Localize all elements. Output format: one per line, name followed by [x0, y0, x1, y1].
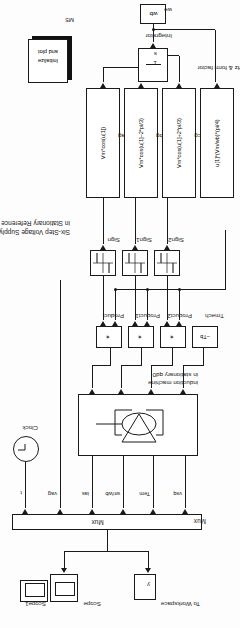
wire-mux-in-2 — [92, 456, 93, 508]
induction-machine-label-1: induction machine — [148, 380, 198, 387]
fcn-expr-1: Vm*cos(u[1]–2*pi/3) — [138, 117, 144, 169]
wire-machine-in-1 — [121, 366, 122, 388]
wire-machine-in-3-riser — [183, 365, 203, 366]
wire-sign-1-to-product-1 — [135, 276, 136, 320]
to-workspace-var: y — [147, 582, 150, 589]
product-label-0: Product — [103, 313, 124, 320]
wire-mux-in-5 — [185, 456, 186, 508]
product-icon-1: * — [136, 335, 146, 339]
wire-machine-in-0-leg — [110, 348, 111, 366]
wire-workspace-leg — [148, 551, 149, 568]
wire-to-scope — [64, 551, 65, 568]
wire-mux-in-4 — [153, 456, 154, 508]
tmech-expr: –Tb — [200, 334, 210, 340]
source-block-wb[interactable]: wb — [140, 4, 166, 24]
wire-sign-0-to-product-0 — [103, 276, 104, 320]
integrator-denominator: s — [154, 51, 157, 58]
wire-mux-in-0 — [25, 462, 26, 508]
scope-screen-icon — [55, 582, 75, 596]
clock-icon — [13, 438, 37, 462]
wire-machine-in-1-leg — [141, 348, 142, 366]
product-block-0[interactable]: * — [96, 326, 122, 348]
mux-icon-label: Mux — [94, 518, 104, 525]
scope-label: Scope — [83, 601, 101, 608]
fcn-expr-0: Vm*cos(u[1]) — [100, 126, 106, 160]
wire-mux-in-3 — [123, 456, 124, 508]
tmech-block[interactable]: –Tb — [192, 326, 218, 348]
wire-vhz-bus-2 — [179, 290, 180, 320]
diagram-title-line2: in Stationary Reference Frame — [0, 219, 70, 227]
diagram-canvas: Mux Mux Scope1 Scope y To Workspace t va… — [0, 0, 240, 628]
sign-label-2: Sign2 — [168, 237, 184, 244]
product-block-2[interactable]: * — [160, 326, 186, 348]
simulink-sheet: Mux Mux Scope1 Scope y To Workspace t va… — [0, 0, 240, 628]
signal-label-t: t — [20, 490, 22, 496]
junction-we-branch — [152, 28, 155, 31]
wire-machine-in-3 — [183, 366, 184, 388]
induction-machine-icon — [96, 402, 182, 448]
arrow-mux-in-2 — [89, 509, 95, 514]
init-block-label: M5 — [65, 17, 74, 24]
wire-machine-in-2-leg — [172, 348, 173, 366]
wire-int-to-fcn-2 — [179, 56, 180, 82]
arrow-scope-in — [61, 568, 67, 573]
wire-machine-in-2-riser — [151, 365, 172, 366]
wire-machine-in-3-leg — [203, 348, 204, 366]
product-block-1[interactable]: * — [128, 326, 154, 348]
arrow-mux-in-5 — [182, 509, 188, 514]
induction-machine-label-2: in stationary qd0 — [153, 372, 198, 379]
integrator-fraction-bar — [146, 64, 161, 65]
sign-label-0: Sign — [108, 237, 120, 244]
scope1-label: Scope1 — [25, 601, 46, 608]
product-icon-2: * — [168, 335, 178, 339]
junction-vhz-0 — [114, 288, 117, 291]
fcn-block-1[interactable]: Vm*cos(u[1]–2*pi/3) — [124, 88, 158, 198]
arrow-product-1-in-a — [132, 321, 138, 326]
wire-mux-in-1 — [60, 280, 61, 508]
arrow-fcn-1-in — [138, 83, 144, 88]
init-and-plot-block[interactable]: Initialize and plot — [28, 39, 68, 83]
wire-fcn-2-to-sign-2 — [167, 198, 168, 244]
wire-workspace-riser — [107, 551, 149, 552]
tmech-label: Tmech — [205, 313, 224, 320]
fcn-expr-2: Vm*cos(u[1]+2*pi/3) — [176, 117, 182, 169]
fcn-block-0[interactable]: Vm*cos(u[1]) — [86, 88, 120, 198]
signum-icon-1 — [122, 250, 148, 276]
wire-machine-in-2 — [151, 366, 152, 388]
arrow-product-2-in-a — [164, 321, 170, 326]
wire-we-branch — [153, 29, 215, 30]
signal-label-wrwb: wr/wb — [105, 491, 120, 497]
fcn-label-vhz: V/Hz & form factor — [197, 65, 240, 72]
fcn-block-2[interactable]: Vm*cos(u[1]+2*pi/3) — [162, 88, 196, 198]
arrow-integrator-in — [150, 43, 156, 48]
wire-vhz-trunk-leg — [225, 230, 226, 290]
arrow-fcn-2-in — [176, 83, 182, 88]
wire-machine-in-1-riser — [121, 365, 141, 366]
signum-icon-2 — [154, 250, 180, 276]
arrow-sign-2-in — [164, 245, 170, 250]
arrow-mux-in-1 — [57, 509, 63, 514]
fcn-expr-vhz: u[1]*(Vm/wb)*(pi/4) — [214, 118, 220, 167]
arrow-product-0-in-a — [100, 321, 106, 326]
signal-label-tem: Tem — [139, 491, 150, 497]
arrow-product-0-in-b — [112, 321, 118, 326]
to-workspace-block[interactable] — [134, 574, 156, 600]
wire-fcn-1-to-sign-1 — [135, 198, 136, 244]
arrow-machine-in-0 — [89, 389, 95, 394]
arrow-mux-in-3 — [120, 509, 126, 514]
arrow-fcn-vhz-in — [214, 83, 220, 88]
wire-vhz-bus-1 — [147, 290, 148, 320]
wire-machine-in-0 — [92, 366, 93, 388]
arrow-machine-in-2 — [148, 389, 154, 394]
product-icon-0: * — [104, 335, 114, 339]
wire-wb-to-integrator — [153, 24, 154, 42]
scope1-screen-icon — [25, 583, 45, 597]
to-workspace-label: To Workspace — [161, 601, 200, 608]
junction-vhz-2 — [178, 288, 181, 291]
mux-block-label: Mux — [194, 518, 206, 525]
arrow-machine-in-3 — [180, 389, 186, 394]
fcn-block-vhz[interactable]: u[1]*(Vm/wb)*(pi/4) — [200, 88, 234, 198]
arrow-sign-0-in — [100, 245, 106, 250]
source-value: wb — [149, 11, 157, 18]
mux-block[interactable] — [12, 514, 202, 530]
